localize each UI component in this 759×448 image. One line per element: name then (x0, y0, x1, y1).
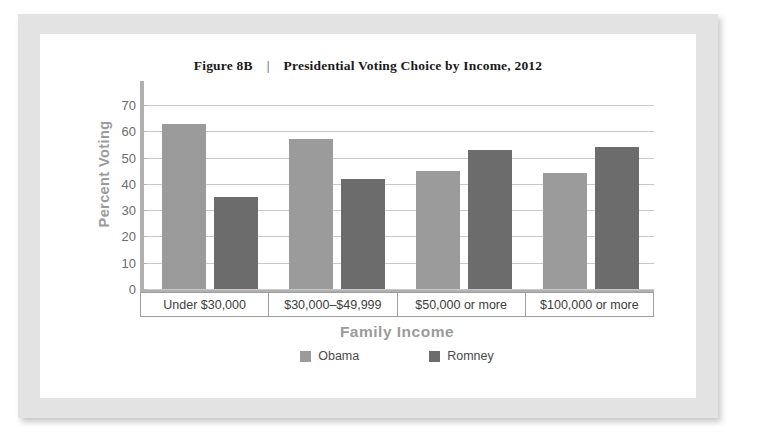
figure-canvas: Figure 8B|Presidential Voting Choice by … (40, 34, 696, 398)
y-tick-label-0: 0 (129, 282, 136, 297)
y-tick-label-50: 50 (122, 150, 136, 165)
x-axis-category-1: $30,000–$49,999 (269, 293, 397, 316)
bars (147, 92, 654, 289)
bar-chart: Percent Voting 010203040506070 Under $30… (40, 34, 696, 398)
y-axis-line (140, 81, 144, 290)
gridline-0: 0 (147, 289, 654, 290)
legend-label-romney: Romney (447, 349, 494, 363)
x-axis-title: Family Income (140, 323, 654, 341)
x-axis-category-2: $50,000 or more (398, 293, 526, 316)
bar-obama-1 (289, 139, 333, 289)
bar-obama-2 (416, 171, 460, 289)
legend-item-romney[interactable]: Romney (429, 349, 494, 363)
bar-romney-3 (595, 147, 639, 289)
x-axis-category-0: Under $30,000 (141, 293, 269, 316)
y-axis-title: Percent Voting (96, 94, 112, 254)
y-tick-label-60: 60 (122, 124, 136, 139)
bar-romney-1 (341, 179, 385, 289)
legend-swatch-icon-obama (300, 351, 311, 362)
legend-item-obama[interactable]: Obama (300, 349, 359, 363)
figure-frame: Figure 8B|Presidential Voting Choice by … (18, 14, 718, 418)
y-tick-label-70: 70 (122, 98, 136, 113)
legend-swatch-icon-romney (429, 351, 440, 362)
y-tick-mark-0 (141, 289, 147, 290)
x-axis-category-3: $100,000 or more (526, 293, 653, 316)
chart-legend: ObamaRomney (140, 349, 654, 363)
bar-group (274, 92, 401, 289)
y-tick-label-20: 20 (122, 229, 136, 244)
bar-group (401, 92, 528, 289)
bar-obama-0 (162, 124, 206, 289)
bar-romney-0 (214, 197, 258, 289)
bar-group (147, 92, 274, 289)
y-tick-label-30: 30 (122, 203, 136, 218)
y-tick-label-10: 10 (122, 255, 136, 270)
bar-group (527, 92, 654, 289)
bar-obama-3 (543, 173, 587, 289)
plot-area: 010203040506070 (147, 92, 654, 289)
x-axis-category-row: Under $30,000$30,000–$49,999$50,000 or m… (140, 292, 654, 317)
bar-romney-2 (468, 150, 512, 289)
y-tick-label-40: 40 (122, 176, 136, 191)
legend-label-obama: Obama (318, 349, 359, 363)
